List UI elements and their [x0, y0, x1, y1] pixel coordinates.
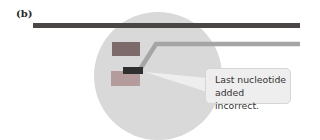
upper-block	[112, 42, 140, 56]
callout-line-2: added incorrect.	[215, 86, 290, 112]
callout-box: Last nucleotide added incorrect.	[205, 68, 291, 104]
callout-line-1: Last nucleotide	[215, 73, 290, 86]
incorrect-nucleotide	[123, 67, 143, 74]
template-strand	[33, 23, 300, 28]
